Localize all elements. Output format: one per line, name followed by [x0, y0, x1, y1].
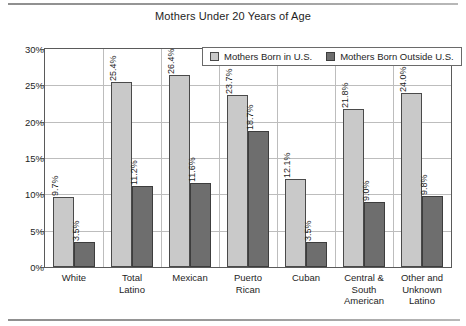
- legend-label: Mothers Born in U.S.: [224, 51, 312, 62]
- bar-group: 12.1%3.5%: [277, 49, 335, 267]
- bar: 3.5%: [306, 242, 327, 267]
- y-axis: 0%5%10%15%20%25%30%: [0, 48, 44, 268]
- bar-group: 21.8%9.0%: [335, 49, 393, 267]
- bar-value-label: 23.7%: [229, 81, 238, 107]
- x-axis-category-label: PuertoRican: [219, 272, 277, 307]
- x-axis-labels: WhiteTotalLatinoMexicanPuertoRicanCubanC…: [45, 272, 451, 307]
- y-axis-tick-label: 20%: [6, 116, 44, 127]
- legend-label: Mothers Born Outside U.S.: [340, 51, 454, 62]
- bar-value-label: 12.1%: [287, 165, 296, 191]
- bar-value-label: 24.0%: [403, 79, 412, 105]
- legend-item: Mothers Born Outside U.S.: [326, 51, 454, 62]
- bar-value-label: 21.8%: [345, 95, 354, 121]
- top-divider-rule: [8, 3, 458, 5]
- bar-value-label: 9.7%: [55, 185, 64, 206]
- x-axis-category-label: Mexican: [161, 272, 219, 307]
- bar-value-label: 11.2%: [134, 172, 143, 197]
- chart-title: Mothers Under 20 Years of Age: [0, 10, 466, 22]
- bar: 9.0%: [364, 202, 385, 267]
- bar-value-label: 26.4%: [171, 61, 180, 87]
- y-axis-tick-label: 25%: [6, 80, 44, 91]
- bar-value-label: 3.5%: [76, 230, 85, 251]
- y-axis-tick-label: 15%: [6, 153, 44, 164]
- bar-value-label: 9.8%: [424, 185, 433, 206]
- bar-group: 9.7%3.5%: [45, 49, 103, 267]
- legend-swatch-born-in-us: [210, 52, 219, 61]
- x-axis-category-label: Central &SouthAmerican: [335, 272, 393, 307]
- bar-groups: 9.7%3.5%25.4%11.2%26.4%11.6%23.7%18.7%12…: [45, 49, 451, 267]
- bar-group: 25.4%11.2%: [103, 49, 161, 267]
- bar-value-label: 3.5%: [308, 230, 317, 251]
- x-axis-category-label: Other andUnknownLatino: [393, 272, 451, 307]
- y-axis-tick-label: 10%: [6, 189, 44, 200]
- bar: 11.2%: [132, 186, 153, 267]
- bar: 9.8%: [422, 196, 443, 267]
- bar-group: 23.7%18.7%: [219, 49, 277, 267]
- x-axis-category-label: White: [45, 272, 103, 307]
- bar-value-label: 18.7%: [250, 117, 259, 143]
- y-axis-tick-label: 0%: [6, 262, 44, 273]
- y-axis-tick-label: 30%: [6, 44, 44, 55]
- bar-value-label: 25.4%: [113, 69, 122, 95]
- bar: 18.7%: [248, 131, 269, 267]
- chart-legend: Mothers Born in U.S.Mothers Born Outside…: [202, 47, 462, 66]
- bar-value-label: 9.0%: [366, 190, 375, 211]
- bottom-divider-rule: [8, 319, 460, 321]
- y-axis-tick-label: 5%: [6, 225, 44, 236]
- bar: 11.6%: [190, 183, 211, 267]
- bar-group: 26.4%11.6%: [161, 49, 219, 267]
- legend-swatch-born-outside-us: [326, 52, 335, 61]
- x-axis-category-label: TotalLatino: [103, 272, 161, 307]
- bar-group: 24.0%9.8%: [393, 49, 451, 267]
- bar-value-label: 11.6%: [192, 169, 201, 194]
- x-axis-category-label: Cuban: [277, 272, 335, 307]
- legend-item: Mothers Born in U.S.: [210, 51, 312, 62]
- bar: 3.5%: [74, 242, 95, 267]
